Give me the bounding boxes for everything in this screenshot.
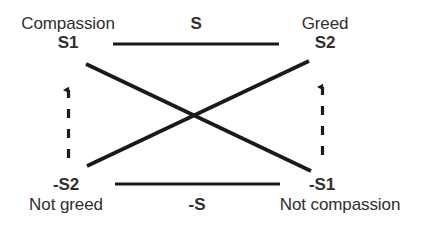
contradiction-diagonal-s1-to-nots1 — [86, 64, 311, 171]
semiotic-square-diagram: Compassion S1 Greed S2 S -S2 Not greed -… — [0, 0, 429, 230]
axis-label-not-s: -S — [189, 195, 206, 214]
node-label-compassion: Compassion — [21, 14, 115, 33]
node-label-not-greed: Not greed — [29, 195, 103, 214]
axis-label-s: S — [190, 14, 201, 33]
node-code-not-s1: -S1 — [309, 175, 335, 194]
node-label-greed: Greed — [302, 14, 349, 33]
node-code-not-s2: -S2 — [53, 175, 79, 194]
node-label-not-compassion: Not compassion — [280, 195, 401, 214]
contradiction-diagonal-nots2-to-s2 — [87, 61, 309, 166]
node-code-s1: S1 — [58, 33, 79, 52]
node-code-s2: S2 — [315, 33, 336, 52]
